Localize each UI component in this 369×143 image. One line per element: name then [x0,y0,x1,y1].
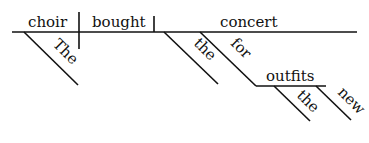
prep-object-adjective-word: new [334,83,369,118]
subject-word: choir [28,13,68,31]
sentence-diagram: choir bought concert The the for outfits… [0,0,369,143]
preposition-word: for [227,34,256,63]
prep-object-article-word: the [293,86,323,116]
subject-article-word: The [49,35,82,68]
verb-word: bought [92,13,146,31]
prep-object-word: outfits [266,67,314,85]
object-article-word: the [190,34,220,64]
object-word: concert [220,13,278,31]
